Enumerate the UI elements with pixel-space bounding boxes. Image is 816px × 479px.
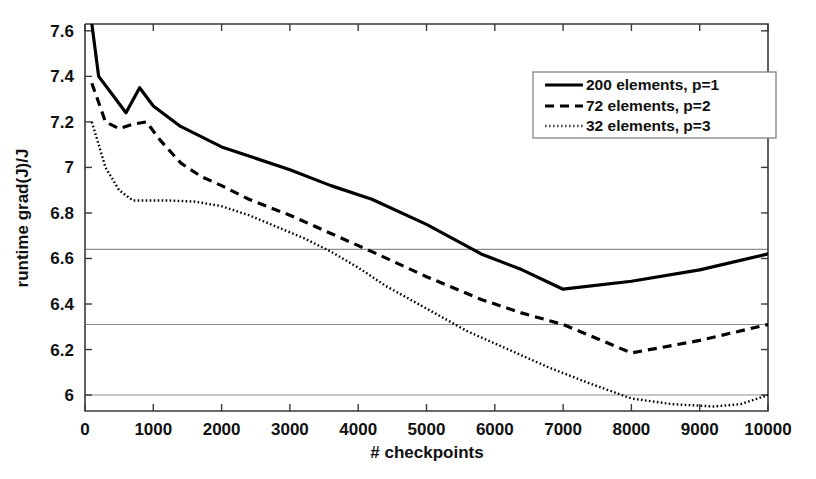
legend-label-3: 32 elements, p=3: [586, 117, 711, 134]
x-tick-label: 5000: [408, 420, 446, 439]
y-tick-label: 7.2: [50, 113, 74, 132]
y-tick-label: 6.6: [50, 249, 74, 268]
x-tick-label: 0: [80, 420, 89, 439]
series-line-3: [92, 122, 768, 407]
y-tick-label: 7: [65, 158, 74, 177]
x-tick-label: 7000: [544, 420, 582, 439]
x-tick-label: 1000: [134, 420, 172, 439]
y-tick-label: 6.8: [50, 204, 74, 223]
x-tick-label: 9000: [681, 420, 719, 439]
y-axis-title: runtime grad(J)/J: [13, 149, 32, 288]
y-tick-label: 7.4: [50, 67, 74, 86]
x-tick-label: 6000: [476, 420, 514, 439]
y-tick-label: 7.6: [50, 22, 74, 41]
x-tick-labels: 0100020003000400050006000700080009000100…: [80, 420, 791, 439]
x-tick-label: 8000: [612, 420, 650, 439]
chart-container: 0100020003000400050006000700080009000100…: [0, 0, 816, 479]
gridlines: [85, 249, 768, 395]
chart-plot: 0100020003000400050006000700080009000100…: [0, 0, 816, 479]
x-axis-title: # checkpoints: [370, 443, 483, 462]
x-tick-label: 2000: [203, 420, 241, 439]
y-tick-label: 6.2: [50, 341, 74, 360]
x-tick-label: 3000: [271, 420, 309, 439]
legend-label-1: 200 elements, p=1: [586, 76, 719, 93]
chart-legend: 200 elements, p=172 elements, p=232 elem…: [533, 72, 776, 138]
x-tick-label: 4000: [339, 420, 377, 439]
legend-label-2: 72 elements, p=2: [586, 97, 711, 114]
y-tick-label: 6.4: [50, 295, 74, 314]
x-tick-label: 10000: [744, 420, 791, 439]
y-tick-label: 6: [65, 386, 74, 405]
y-tick-labels: 66.26.46.66.877.27.47.6: [50, 22, 74, 405]
